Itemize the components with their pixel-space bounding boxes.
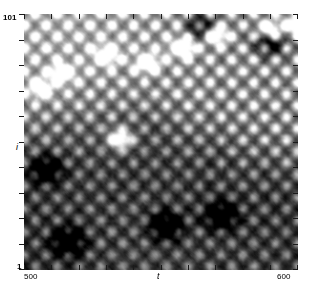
- x-axis-tick: [297, 265, 298, 270]
- y-axis-tick: [19, 91, 24, 92]
- y-axis-tick-right: [293, 91, 298, 92]
- y-axis-tick-right: [293, 142, 298, 143]
- y-axis-tick: [19, 167, 24, 168]
- x-axis-tick: [215, 265, 216, 270]
- y-axis-tick: [19, 116, 24, 117]
- x-axis-title: t: [157, 272, 160, 281]
- x-axis-tick-top: [243, 14, 244, 19]
- y-axis-max-label: 101: [3, 13, 16, 22]
- x-axis-tick-top: [51, 14, 52, 19]
- y-axis-tick: [19, 218, 24, 219]
- x-axis-tick: [51, 265, 52, 270]
- x-axis-tick-top: [79, 14, 80, 19]
- y-axis-tick: [19, 244, 24, 245]
- heatmap-image: [24, 14, 298, 270]
- x-axis-tick-top: [133, 14, 134, 19]
- x-axis-tick-top: [270, 14, 271, 19]
- x-axis-min-label: 500: [24, 272, 37, 281]
- y-axis-tick-right: [293, 244, 298, 245]
- x-axis-tick-top: [215, 14, 216, 19]
- y-axis-tick-right: [293, 218, 298, 219]
- y-axis-tick: [19, 142, 24, 143]
- y-axis-tick: [19, 193, 24, 194]
- y-axis-tick: [19, 65, 24, 66]
- y-axis-title: i: [16, 143, 18, 152]
- x-axis-tick: [79, 265, 80, 270]
- y-axis-min-label: 1: [17, 262, 21, 271]
- spacetime-plot-figure: 101 i 1 500 t 600: [0, 0, 313, 299]
- y-axis-tick: [19, 40, 24, 41]
- y-axis-tick-right: [293, 193, 298, 194]
- x-axis-tick: [188, 265, 189, 270]
- x-axis-tick-top: [297, 14, 298, 19]
- x-axis-tick: [24, 265, 25, 270]
- y-axis-tick-right: [293, 167, 298, 168]
- x-axis-tick: [106, 265, 107, 270]
- x-axis-tick: [133, 265, 134, 270]
- x-axis-tick: [270, 265, 271, 270]
- y-axis-tick-right: [293, 116, 298, 117]
- heatmap-plot-area: [24, 14, 298, 270]
- x-axis-tick: [243, 265, 244, 270]
- x-axis-tick-top: [106, 14, 107, 19]
- x-axis-max-label: 600: [277, 272, 290, 281]
- y-axis-tick-right: [293, 65, 298, 66]
- x-axis-tick-top: [161, 14, 162, 19]
- x-axis-tick: [161, 265, 162, 270]
- x-axis-tick-top: [24, 14, 25, 19]
- y-axis-tick-right: [293, 40, 298, 41]
- x-axis-tick-top: [188, 14, 189, 19]
